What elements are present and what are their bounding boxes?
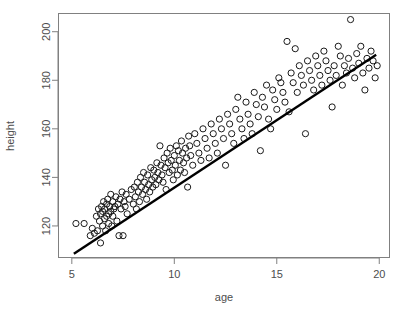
x-axis-tick-label: 15	[271, 268, 283, 280]
y-axis-tick-label: 160	[40, 120, 52, 138]
plot-canvas: 5101520 120140160180200 age height	[0, 0, 405, 318]
y-axis-title: height	[4, 121, 16, 151]
y-axis-tick-label: 180	[40, 71, 52, 89]
x-axis-title: age	[215, 291, 233, 303]
x-axis-tick-label: 20	[373, 268, 385, 280]
scatter-plot-figure: 5101520 120140160180200 age height	[0, 0, 405, 318]
y-axis-tick-label: 140	[40, 168, 52, 186]
x-axis-tick-label: 5	[69, 268, 75, 280]
y-axis-tick-label: 200	[40, 23, 52, 41]
y-axis-tick-label: 120	[40, 217, 52, 235]
x-axis-tick-label: 10	[168, 268, 180, 280]
plot-background	[0, 0, 405, 318]
